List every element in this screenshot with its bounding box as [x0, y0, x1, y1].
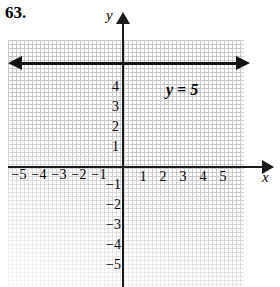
- x-tick-label: −5: [9, 168, 29, 182]
- y-axis-arrow-icon: [116, 12, 130, 24]
- gridline-vertical: [23, 40, 24, 287]
- gridline-vertical: [243, 40, 244, 287]
- gridline-vertical: [43, 40, 44, 287]
- x-tick-label: −4: [29, 168, 49, 182]
- plotted-line-y-equals-5: [20, 62, 238, 65]
- x-tick-label: −3: [49, 168, 69, 182]
- y-tick-label: 3: [105, 100, 119, 114]
- equation-label: y = 5: [166, 82, 198, 98]
- y-tick-label: −1: [99, 178, 121, 192]
- y-tick-label: −4: [99, 238, 121, 252]
- gridline-vertical: [63, 40, 64, 287]
- x-tick-label: 3: [175, 170, 191, 184]
- x-axis-label: x: [262, 170, 269, 185]
- y-tick-label: −3: [99, 218, 121, 232]
- x-tick-label: 1: [135, 170, 151, 184]
- y-tick-label: 1: [105, 140, 119, 154]
- x-tick-label: 5: [215, 170, 231, 184]
- gridline-vertical: [143, 40, 144, 287]
- gridline-vertical: [8, 40, 9, 287]
- gridline-vertical: [83, 40, 84, 287]
- gridline-vertical: [163, 40, 164, 287]
- plot-line-right-arrow-icon: [236, 56, 250, 70]
- y-tick-label: −2: [99, 198, 121, 212]
- gridline-vertical: [183, 40, 184, 287]
- gridline-vertical: [223, 40, 224, 287]
- y-axis-label: y: [106, 8, 113, 23]
- graph-figure: 63. x y −5 −4 −3 −2: [0, 0, 280, 287]
- gridline-vertical: [203, 40, 204, 287]
- exercise-number: 63.: [5, 4, 26, 21]
- y-tick-label: 4: [105, 80, 119, 94]
- coordinate-grid: [8, 40, 244, 287]
- plot-line-left-arrow-icon: [8, 56, 22, 70]
- y-tick-label: 2: [105, 120, 119, 134]
- y-tick-label: −5: [99, 258, 121, 272]
- x-tick-label: 2: [155, 170, 171, 184]
- x-tick-label: −2: [69, 168, 89, 182]
- x-tick-label: 4: [195, 170, 211, 184]
